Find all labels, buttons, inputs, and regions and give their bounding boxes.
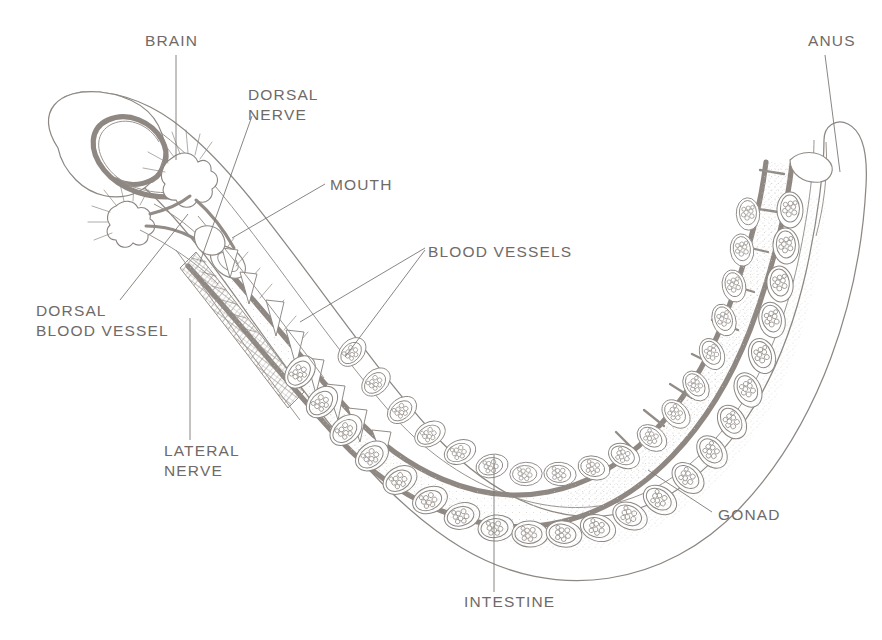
diagram-canvas: BRAINANUSDORSALNERVEMOUTHBLOOD VESSELSDO… xyxy=(0,0,882,640)
label-mouth-line-0: MOUTH xyxy=(330,176,393,193)
label-dorsal-blood-vessel-line-0: DORSAL xyxy=(36,302,107,319)
label-gonad-line-0: GONAD xyxy=(718,506,781,523)
label-lateral-nerve-line-0: LATERAL xyxy=(164,442,240,459)
label-lateral-nerve: LATERALNERVE xyxy=(164,442,240,479)
label-gonad: GONAD xyxy=(718,506,781,523)
leader-blood-vessels-a xyxy=(300,248,425,322)
label-dorsal-nerve-line-1: NERVE xyxy=(248,106,307,123)
label-lateral-nerve-line-1: NERVE xyxy=(164,462,223,479)
label-blood-vessels: BLOOD VESSELS xyxy=(428,243,572,260)
label-blood-vessels-line-0: BLOOD VESSELS xyxy=(428,243,572,260)
label-dorsal-nerve: DORSALNERVE xyxy=(248,86,319,123)
label-intestine-line-0: INTESTINE xyxy=(464,593,555,610)
label-brain-line-0: BRAIN xyxy=(145,32,198,49)
label-brain: BRAIN xyxy=(145,32,198,49)
label-intestine: INTESTINE xyxy=(464,593,555,610)
leader-blood-vessels-b xyxy=(345,250,425,357)
anatomy-figure: BRAINANUSDORSALNERVEMOUTHBLOOD VESSELSDO… xyxy=(0,0,882,640)
label-dorsal-nerve-line-0: DORSAL xyxy=(248,86,319,103)
label-anus: ANUS xyxy=(808,32,856,49)
label-dorsal-blood-vessel: DORSALBLOOD VESSEL xyxy=(36,302,169,339)
label-anus-line-0: ANUS xyxy=(808,32,856,49)
label-mouth: MOUTH xyxy=(330,176,393,193)
label-dorsal-blood-vessel-line-1: BLOOD VESSEL xyxy=(36,322,169,339)
